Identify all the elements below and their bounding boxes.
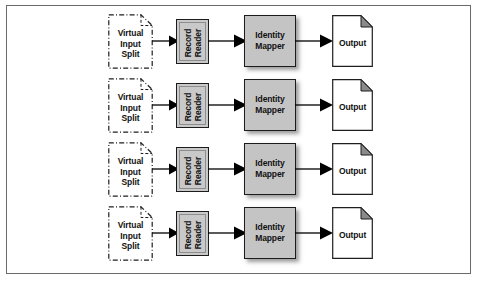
im-line-2: Mapper bbox=[255, 41, 285, 52]
im-line-2: Mapper bbox=[255, 233, 285, 244]
vis-line-1: Virtual bbox=[118, 92, 144, 103]
output-label: Output bbox=[332, 143, 373, 195]
rr-line-2: Reader bbox=[194, 156, 204, 184]
record-reader-node[interactable]: Record Reader bbox=[176, 211, 209, 256]
arrow-mapper-to-output bbox=[295, 162, 335, 176]
arrow-mapper-to-output bbox=[295, 98, 335, 112]
rr-line-1: Record bbox=[184, 156, 194, 185]
output-label: Output bbox=[332, 207, 373, 259]
arrow-reader-to-mapper bbox=[208, 226, 248, 240]
im-line-2: Mapper bbox=[255, 169, 285, 180]
virtual-input-split-label: Virtual Input Split bbox=[108, 14, 153, 69]
virtual-input-split-node[interactable]: Virtual Input Split bbox=[108, 206, 153, 261]
im-line-1: Identity bbox=[255, 222, 284, 233]
record-reader-node[interactable]: Record Reader bbox=[176, 19, 209, 64]
vis-line-3: Split bbox=[122, 113, 140, 124]
identity-mapper-node[interactable]: Identity Mapper bbox=[244, 143, 296, 195]
virtual-input-split-node[interactable]: Virtual Input Split bbox=[108, 78, 153, 133]
arrow-reader-to-mapper bbox=[208, 162, 248, 176]
vis-line-1: Virtual bbox=[118, 28, 144, 39]
identity-mapper-node[interactable]: Identity Mapper bbox=[244, 79, 296, 131]
arrow-reader-to-mapper bbox=[208, 34, 248, 48]
rr-line-2: Reader bbox=[194, 220, 204, 248]
record-reader-node[interactable]: Record Reader bbox=[176, 147, 209, 192]
identity-mapper-label: Identity Mapper bbox=[245, 208, 295, 258]
output-node[interactable]: Output bbox=[332, 15, 373, 67]
diagram-figure: Virtual Input Split Record Reader bbox=[0, 0, 478, 281]
record-reader-label: Record Reader bbox=[177, 84, 210, 129]
identity-mapper-label: Identity Mapper bbox=[245, 144, 295, 194]
virtual-input-split-label: Virtual Input Split bbox=[108, 206, 153, 261]
record-reader-label: Record Reader bbox=[177, 212, 210, 257]
rr-line-1: Record bbox=[184, 220, 194, 249]
identity-mapper-label: Identity Mapper bbox=[245, 80, 295, 130]
vis-line-3: Split bbox=[122, 177, 140, 188]
im-line-1: Identity bbox=[255, 158, 284, 169]
rr-line-1: Record bbox=[184, 92, 194, 121]
im-line-1: Identity bbox=[255, 30, 284, 41]
vis-line-2: Input bbox=[120, 167, 140, 178]
virtual-input-split-label: Virtual Input Split bbox=[108, 78, 153, 133]
virtual-input-split-label: Virtual Input Split bbox=[108, 142, 153, 197]
identity-mapper-node[interactable]: Identity Mapper bbox=[244, 207, 296, 259]
pipeline-row-1: Virtual Input Split Record Reader bbox=[0, 10, 478, 72]
virtual-input-split-node[interactable]: Virtual Input Split bbox=[108, 142, 153, 197]
rr-line-2: Reader bbox=[194, 28, 204, 56]
output-label: Output bbox=[332, 15, 373, 67]
virtual-input-split-node[interactable]: Virtual Input Split bbox=[108, 14, 153, 69]
vis-line-1: Virtual bbox=[118, 220, 144, 231]
arrow-reader-to-mapper bbox=[208, 98, 248, 112]
pipeline-row-2: Virtual Input Split Record Reader bbox=[0, 74, 478, 136]
record-reader-label: Record Reader bbox=[177, 148, 210, 193]
arrow-mapper-to-output bbox=[295, 34, 335, 48]
record-reader-node[interactable]: Record Reader bbox=[176, 83, 209, 128]
output-node[interactable]: Output bbox=[332, 207, 373, 259]
vis-line-2: Input bbox=[120, 103, 140, 114]
identity-mapper-label: Identity Mapper bbox=[245, 16, 295, 66]
rr-line-2: Reader bbox=[194, 92, 204, 120]
diagram-stage: Virtual Input Split Record Reader bbox=[0, 0, 478, 281]
pipeline-row-3: Virtual Input Split Record Reader bbox=[0, 138, 478, 200]
identity-mapper-node[interactable]: Identity Mapper bbox=[244, 15, 296, 67]
rr-line-1: Record bbox=[184, 28, 194, 57]
im-line-2: Mapper bbox=[255, 105, 285, 116]
vis-line-1: Virtual bbox=[118, 156, 144, 167]
output-node[interactable]: Output bbox=[332, 143, 373, 195]
im-line-1: Identity bbox=[255, 94, 284, 105]
output-label: Output bbox=[332, 79, 373, 131]
vis-line-2: Input bbox=[120, 39, 140, 50]
vis-line-3: Split bbox=[122, 241, 140, 252]
vis-line-3: Split bbox=[122, 49, 140, 60]
pipeline-row-4: Virtual Input Split Record Reader bbox=[0, 202, 478, 264]
arrow-mapper-to-output bbox=[295, 226, 335, 240]
vis-line-2: Input bbox=[120, 231, 140, 242]
output-node[interactable]: Output bbox=[332, 79, 373, 131]
record-reader-label: Record Reader bbox=[177, 20, 210, 65]
